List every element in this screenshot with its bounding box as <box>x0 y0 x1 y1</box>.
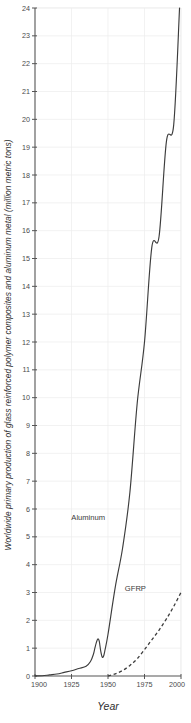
y-tick-label: 1 <box>26 644 30 653</box>
y-tick-label: 13 <box>22 310 30 319</box>
y-tick-label: 9 <box>26 421 30 430</box>
y-tick-label: 23 <box>22 31 30 40</box>
y-tick-label: 5 <box>26 532 30 541</box>
y-tick-label: 24 <box>22 4 30 13</box>
gridlines <box>35 8 181 676</box>
x-tick-label: 2000 <box>169 680 185 689</box>
x-tick-label: 1925 <box>64 680 80 689</box>
y-tick-label: 21 <box>22 87 30 96</box>
x-tick-label: 1950 <box>100 680 116 689</box>
y-tick-label: 10 <box>22 393 30 402</box>
series-annotations: AluminumGFRP <box>71 513 146 593</box>
y-tick-label: 3 <box>26 588 30 597</box>
y-tick-label: 19 <box>22 143 30 152</box>
series-label-gfrp: GFRP <box>125 584 146 593</box>
tick-marks <box>32 8 181 679</box>
x-tick-label: 1975 <box>137 680 153 689</box>
y-tick-label: 17 <box>22 198 30 207</box>
y-tick-label: 11 <box>23 365 30 374</box>
y-tick-label: 2 <box>26 616 30 625</box>
y-tick-label: 22 <box>22 59 30 68</box>
x-axis-title: Year <box>35 700 181 712</box>
y-tick-label: 16 <box>22 226 30 235</box>
y-tick-label: 6 <box>26 505 30 514</box>
y-tick-label: 4 <box>26 560 30 569</box>
y-tick-label: 18 <box>22 171 30 180</box>
chart-container: Worldwide primary production of glass re… <box>0 0 191 723</box>
y-tick-label: 14 <box>22 282 30 291</box>
series-label-aluminum: Aluminum <box>71 513 105 522</box>
y-tick-label: 20 <box>22 115 30 124</box>
plot-svg: 0123456789101112131415161718192021222324… <box>0 0 191 723</box>
y-tick-label: 0 <box>26 672 30 681</box>
tick-labels: 0123456789101112131415161718192021222324… <box>22 4 185 689</box>
y-tick-label: 12 <box>22 338 30 347</box>
y-tick-label: 7 <box>26 477 30 486</box>
x-tick-label: 1900 <box>31 680 47 689</box>
y-tick-label: 8 <box>26 449 30 458</box>
y-tick-label: 15 <box>22 254 30 263</box>
